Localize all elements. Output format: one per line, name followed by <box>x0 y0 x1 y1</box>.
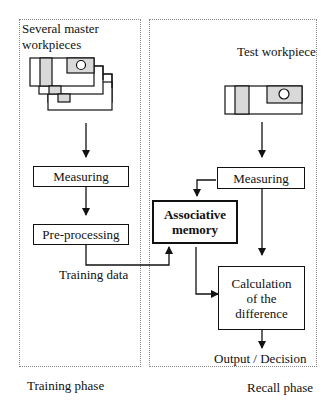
calc-line1: Calculation <box>232 276 292 291</box>
recall-measuring-box: Measuring <box>217 167 305 189</box>
calculation-box: Calculation of the difference <box>218 266 305 330</box>
arrow-measuring-to-memory <box>197 180 216 196</box>
arrow-training-data <box>86 244 169 265</box>
recall-phase-caption: Recall phase <box>247 380 313 396</box>
arrow-memory-to-calc <box>196 247 218 294</box>
training-measuring-box: Measuring <box>33 166 129 187</box>
training-phase-caption: Training phase <box>27 378 104 394</box>
test-workpiece-icon <box>225 86 302 114</box>
memory-line2: memory <box>172 222 218 237</box>
preprocessing-box: Pre-processing <box>33 224 129 245</box>
training-title: Several master <box>22 21 99 37</box>
training-title-2: workpieces <box>22 37 81 53</box>
recall-title: Test workpiece <box>237 44 316 60</box>
calc-line3: difference <box>235 306 287 321</box>
master-workpieces-icon <box>30 58 112 110</box>
training-data-label: Training data <box>59 267 128 283</box>
memory-line1: Associative <box>164 207 226 222</box>
associative-memory-box: Associative memory <box>152 200 238 244</box>
output-decision-label: Output / Decision <box>214 351 306 367</box>
calc-line2: of the <box>247 291 277 306</box>
